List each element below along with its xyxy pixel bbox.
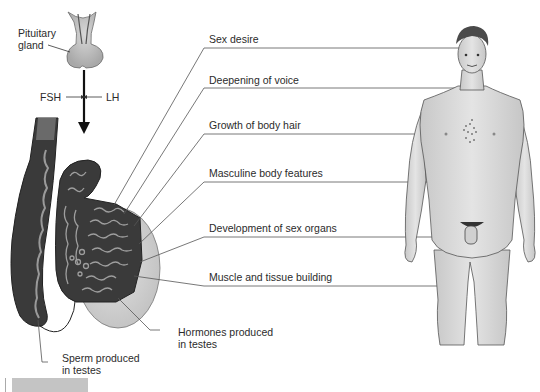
sperm-produced-label: Sperm produced in testes (62, 352, 140, 376)
lh-label: LH (106, 91, 119, 103)
effect-muscle-tissue: Muscle and tissue building (209, 271, 332, 283)
pituitary-label: Pituitary gland (18, 27, 56, 51)
page-edge-mark (5, 378, 6, 392)
hormone-arrow (66, 70, 102, 134)
caption-bar (12, 378, 88, 392)
male-figure (405, 35, 535, 345)
pituitary-gland (48, 12, 103, 68)
fsh-label: FSH (40, 91, 61, 103)
testis-tubules (56, 160, 143, 302)
effect-masculine-features: Masculine body features (209, 167, 323, 179)
effect-sex-organs: Development of sex organs (209, 222, 337, 234)
hormones-produced-label: Hormones produced in testes (178, 326, 273, 350)
effect-sex-desire: Sex desire (209, 33, 259, 45)
effect-deepening-voice: Deepening of voice (209, 74, 299, 86)
effect-body-hair: Growth of body hair (209, 119, 301, 131)
